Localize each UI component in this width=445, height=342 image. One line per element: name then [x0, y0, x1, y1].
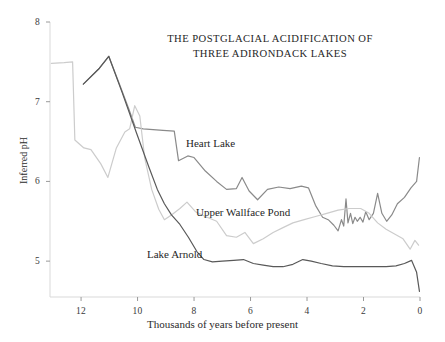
y-axis-tick-label-6: 6: [14, 176, 40, 186]
x-axis-label: Thousands of years before present: [0, 318, 445, 330]
chart-title-line-2: THREE ADIRONDACK LAKES: [120, 46, 420, 61]
series-line-lake-arnold: [83, 56, 419, 291]
axis-spines: [50, 22, 420, 297]
chart-title-line-1: THE POSTGLACIAL ACIDIFICATION OF: [120, 31, 420, 46]
y-axis-tick-label-5: 5: [14, 256, 40, 266]
chart-figure: THE POSTGLACIAL ACIDIFICATION OF THREE A…: [0, 0, 445, 342]
y-axis-tick-label-8: 8: [14, 17, 40, 27]
x-axis-tick-label-4: 4: [305, 306, 310, 316]
chart-series-group: [51, 56, 419, 291]
x-axis-tick-label-12: 12: [76, 306, 86, 316]
y-axis-tick-label-7: 7: [14, 97, 40, 107]
x-axis-tick-label-10: 10: [133, 306, 143, 316]
series-label-heart-lake: Heart Lake: [186, 137, 235, 149]
x-axis-tick-label-8: 8: [192, 306, 197, 316]
x-axis-tick-label-0: 0: [418, 306, 423, 316]
series-label-lake-arnold: Lake Arnold: [147, 248, 202, 260]
series-line-heart-lake: [83, 56, 419, 231]
series-label-upper-wallface-pond: Upper Wallface Pond: [196, 206, 290, 218]
chart-title: THE POSTGLACIAL ACIDIFICATION OF THREE A…: [120, 31, 420, 61]
y-axis-label: Inferred pH: [18, 116, 29, 206]
x-axis-tick-label-2: 2: [361, 306, 366, 316]
x-axis-tick-label-6: 6: [248, 306, 253, 316]
